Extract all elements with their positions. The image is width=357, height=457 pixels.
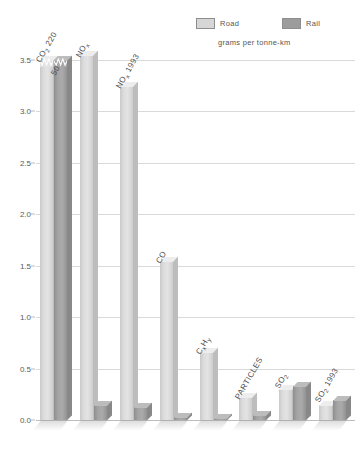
bar-front-face — [319, 405, 332, 420]
y-axis-tick-label: 1.5 — [20, 261, 31, 270]
bar-road — [279, 389, 292, 420]
bar-group — [279, 60, 312, 420]
bar-group — [80, 60, 113, 420]
bar-road — [80, 55, 93, 420]
bar-side-face — [133, 81, 138, 420]
bar-rail — [214, 418, 227, 420]
legend-item-road: Road — [196, 18, 239, 29]
bar-road — [200, 352, 213, 420]
bar-front-face — [134, 407, 147, 420]
bar-side-face — [306, 382, 311, 420]
bar-road — [319, 405, 332, 420]
legend-item-rail: Rail — [282, 18, 320, 29]
bar-front-face — [120, 86, 133, 420]
legend-swatch-rail — [282, 18, 301, 29]
bar-front-face — [40, 60, 53, 420]
bar-road — [160, 261, 173, 420]
bar-rail — [94, 405, 107, 420]
bar-side-face — [67, 55, 72, 420]
bar-front-face — [54, 60, 67, 420]
y-axis-tick-mark — [31, 162, 35, 163]
y-axis-tick-label: 2.5 — [20, 158, 31, 167]
y-axis-tick-label: 0.0 — [20, 416, 31, 425]
bar-group — [160, 60, 193, 420]
bar-rail — [134, 407, 147, 420]
chart-legend: Road Rail — [196, 18, 354, 34]
y-axis-tick-label: 1.0 — [20, 313, 31, 322]
y-axis-tick-mark — [31, 111, 35, 112]
bar-side-face — [93, 50, 98, 420]
bar-front-face — [160, 261, 173, 420]
bar-rail — [333, 400, 346, 420]
y-axis-tick-mark — [31, 368, 35, 369]
bar-group — [200, 60, 233, 420]
bar-side-face — [173, 256, 178, 420]
bar-road — [120, 86, 133, 420]
bar-front-face — [239, 397, 252, 420]
y-axis-tick-label: 3.0 — [20, 107, 31, 116]
bar-group — [319, 60, 352, 420]
bar-front-face — [279, 389, 292, 420]
bar-group — [40, 60, 73, 420]
bar-rail — [293, 386, 306, 420]
y-axis-tick-mark — [31, 265, 35, 266]
y-axis-tick-label: 2.0 — [20, 210, 31, 219]
bar-side-face — [213, 348, 218, 420]
bar-front-face — [94, 405, 107, 420]
legend-label-rail: Rail — [306, 19, 320, 28]
bar-road — [239, 397, 252, 420]
emissions-bar-chart: Road Rail grams per tonne-km 0.00.51.01.… — [0, 0, 357, 457]
bar-rail — [54, 60, 67, 420]
bar-rail — [174, 417, 187, 420]
chart-unit-note: grams per tonne-km — [218, 38, 291, 47]
y-axis-tick-label: 0.5 — [20, 364, 31, 373]
bar-front-face — [80, 55, 93, 420]
y-axis-tick-mark — [31, 420, 35, 421]
bar-road — [40, 60, 53, 420]
plot-area: 0.00.51.01.52.02.53.03.5CO2 220NOxNOx 19… — [36, 60, 355, 420]
bar-front-face — [200, 352, 213, 420]
y-axis-tick-mark — [31, 317, 35, 318]
bar-front-face — [293, 386, 306, 420]
bar-rail — [253, 415, 266, 420]
bar-front-face — [333, 400, 346, 420]
legend-label-road: Road — [220, 19, 239, 28]
legend-swatch-road — [196, 18, 215, 29]
y-axis-tick-label: 3.5 — [20, 56, 31, 65]
y-axis-tick-mark — [31, 214, 35, 215]
bar-group — [120, 60, 153, 420]
